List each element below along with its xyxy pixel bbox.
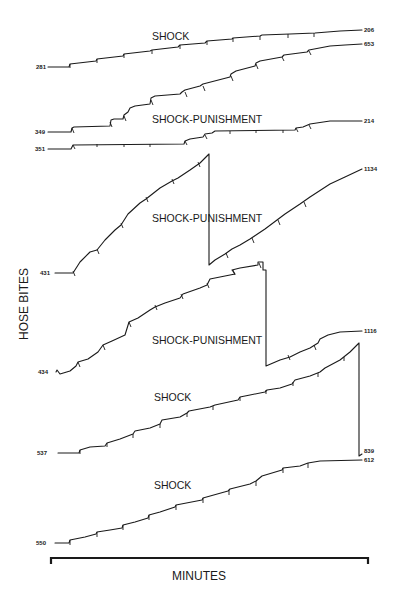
end-label: 612: [364, 457, 375, 463]
start-label: 281: [36, 64, 47, 70]
x-axis-label: MINUTES: [172, 569, 226, 583]
start-label: 351: [35, 146, 46, 152]
condition-label: SHOCK: [152, 30, 189, 42]
condition-label: SHOCK-PUNISHMENT: [152, 212, 263, 224]
condition-label: SHOCK: [154, 479, 191, 491]
start-label: 431: [40, 270, 51, 276]
trace-434: 434 1116: [38, 262, 377, 375]
end-label: 214: [364, 118, 375, 124]
trace-281: 281 206: [36, 27, 375, 70]
end-label: 206: [364, 27, 375, 33]
x-axis-bracket: [51, 558, 368, 564]
condition-label: SHOCK: [154, 391, 191, 403]
end-label: 653: [364, 41, 375, 47]
condition-label: SHOCK-PUNISHMENT: [152, 334, 263, 346]
cumulative-record-chart: 281 206 349 653 351 214 431 1134 434 111…: [0, 0, 395, 608]
end-label: 1134: [364, 166, 378, 172]
trace-537: 537 839: [37, 343, 375, 456]
y-axis-label: HOSE BITES: [17, 268, 31, 340]
start-label: 434: [38, 369, 49, 375]
end-label: 1116: [364, 328, 377, 334]
condition-label: SHOCK-PUNISHMENT: [152, 113, 263, 125]
end-label: 839: [364, 448, 375, 454]
start-label: 537: [37, 450, 48, 456]
start-label: 550: [36, 540, 47, 546]
start-label: 349: [35, 129, 46, 135]
trace-550: 550 612: [36, 457, 375, 546]
